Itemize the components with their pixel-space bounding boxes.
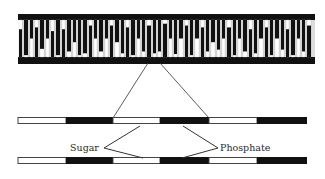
base-pair — [105, 20, 108, 57]
sugar-segment — [209, 118, 257, 124]
zoom-line — [113, 63, 148, 118]
base-pair — [270, 20, 273, 57]
base-pair — [147, 20, 151, 57]
upper-strand — [18, 117, 307, 124]
base-pair — [24, 20, 28, 57]
base-pair — [78, 20, 81, 57]
phosphate-label: Phosphate — [220, 142, 271, 153]
base-pair — [254, 20, 257, 57]
base-pair — [67, 20, 71, 57]
sugar-segment — [113, 118, 160, 124]
base-pair — [259, 20, 263, 57]
lower-strand — [18, 157, 307, 164]
phosphate-segment — [160, 157, 209, 164]
base-pair — [227, 20, 231, 57]
base-pair — [211, 20, 215, 57]
base-pair — [174, 20, 177, 57]
base-pair — [217, 20, 220, 57]
phosphate-segment — [160, 117, 209, 124]
phosphate-segment — [66, 117, 113, 124]
base-pair — [243, 20, 247, 57]
top-backbone — [18, 14, 315, 20]
phosphate-segment — [66, 157, 113, 164]
base-pair — [190, 20, 193, 57]
base-pair — [94, 20, 97, 57]
base-pair-rungs — [19, 20, 315, 57]
sugar-label: Sugar — [70, 142, 99, 153]
sugar-segment — [18, 158, 66, 164]
base-pair — [249, 20, 252, 57]
base-pair — [222, 20, 225, 57]
base-pair — [179, 20, 183, 57]
base-pair — [83, 20, 87, 57]
base-pair — [99, 20, 103, 57]
base-pair — [163, 20, 167, 57]
base-pair — [62, 20, 65, 57]
base-pair — [275, 20, 279, 57]
base-pair — [158, 20, 161, 57]
base-pair — [281, 20, 284, 57]
base-pair — [110, 20, 113, 57]
base-pair — [195, 20, 199, 57]
base-pair — [185, 20, 188, 57]
base-pair — [35, 20, 38, 57]
base-pair — [121, 20, 124, 57]
base-pair — [46, 20, 49, 57]
sugar-segment — [113, 158, 160, 164]
sugar-segment — [209, 158, 257, 164]
base-pair — [169, 20, 172, 57]
base-pair — [302, 20, 305, 57]
base-pair — [30, 20, 33, 57]
base-pair — [297, 20, 300, 57]
base-pair — [40, 20, 44, 57]
base-pair — [265, 20, 268, 57]
base-pair — [307, 20, 311, 57]
base-pair — [89, 20, 92, 57]
base-pair — [201, 20, 204, 57]
label-pointers — [104, 126, 218, 158]
base-pair — [19, 20, 22, 57]
base-pair — [233, 20, 236, 57]
base-pair — [73, 20, 76, 57]
base-pair — [56, 20, 60, 57]
base-pair — [137, 20, 140, 57]
dna-structure-diagram: Sugar Phosphate — [0, 0, 325, 179]
zoom-line — [160, 63, 209, 118]
base-pair — [238, 20, 241, 57]
magnification-lines — [113, 63, 209, 118]
base-pair — [153, 20, 156, 57]
sugar-phosphate-backbones — [18, 117, 307, 164]
base-pair — [291, 20, 295, 57]
phosphate-pointer — [182, 126, 218, 158]
phosphate-segment — [257, 157, 307, 164]
base-pair — [126, 20, 129, 57]
sugar-segment — [18, 118, 66, 124]
base-pair — [131, 20, 135, 57]
dna-double-helix-ladder — [18, 14, 315, 64]
base-pair — [206, 20, 209, 57]
base-pair — [115, 20, 119, 57]
base-pair — [51, 20, 54, 57]
phosphate-segment — [257, 117, 307, 124]
bottom-backbone — [18, 57, 315, 64]
sugar-pointer — [104, 126, 143, 158]
base-pair — [142, 20, 145, 57]
base-pair — [286, 20, 289, 57]
